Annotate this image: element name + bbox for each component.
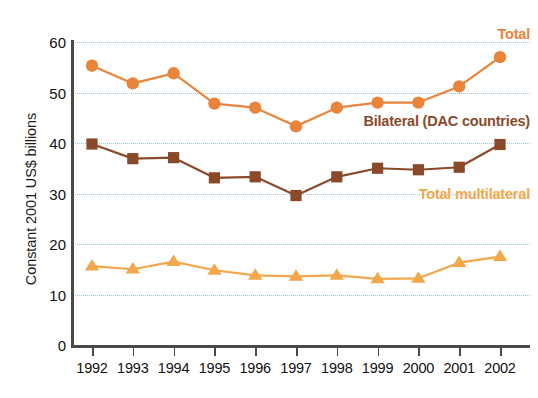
y-tick-label-10: 10 — [36, 286, 66, 303]
y-tick-label-50: 50 — [36, 84, 66, 101]
y-tick-label-40: 40 — [36, 135, 66, 152]
series-label-total: Total — [497, 26, 530, 42]
x-tick-2001 — [459, 347, 461, 356]
chart-container: Constant 2001 US$ billions 0102030405060… — [0, 0, 538, 398]
x-tick-1993 — [133, 347, 135, 356]
x-axis-line — [71, 345, 530, 348]
x-tick-label-1993: 1993 — [110, 360, 156, 376]
x-tick-label-1999: 1999 — [355, 360, 401, 376]
x-tick-2002 — [500, 347, 502, 356]
y-tick-label-0: 0 — [36, 337, 66, 354]
y-axis-line — [71, 40, 74, 347]
x-tick-1995 — [214, 347, 216, 356]
y-tick-label-60: 60 — [36, 34, 66, 51]
x-tick-label-1995: 1995 — [191, 360, 237, 376]
x-tick-1994 — [174, 347, 176, 356]
x-tick-label-2000: 2000 — [395, 360, 441, 376]
y-axis-tick-labels: 0102030405060 — [34, 0, 66, 398]
gridline-60 — [72, 42, 530, 43]
gridline-10 — [72, 295, 530, 296]
x-tick-1992 — [92, 347, 94, 356]
gridline-20 — [72, 244, 530, 245]
y-tick-label-30: 30 — [36, 185, 66, 202]
x-tick-1996 — [255, 347, 257, 356]
series-label-multilateral: Total multilateral — [419, 186, 530, 202]
x-tick-1998 — [337, 347, 339, 356]
gridline-50 — [72, 93, 530, 94]
y-tick-label-20: 20 — [36, 236, 66, 253]
x-tick-label-1998: 1998 — [314, 360, 360, 376]
x-tick-label-1994: 1994 — [151, 360, 197, 376]
gridline-40 — [72, 143, 530, 144]
x-tick-label-1997: 1997 — [273, 360, 319, 376]
x-tick-1997 — [296, 347, 298, 356]
x-tick-2000 — [418, 347, 420, 356]
x-tick-label-1992: 1992 — [69, 360, 115, 376]
x-tick-label-2002: 2002 — [477, 360, 523, 376]
x-tick-label-1996: 1996 — [232, 360, 278, 376]
x-tick-label-2001: 2001 — [436, 360, 482, 376]
x-tick-1999 — [378, 347, 380, 356]
series-label-bilateral: Bilateral (DAC countries) — [363, 113, 530, 129]
